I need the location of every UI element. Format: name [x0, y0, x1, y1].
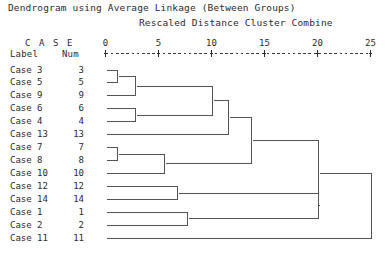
tree-branches — [107, 71, 372, 239]
axis-ruler — [104, 50, 372, 56]
dendrogram-tree — [0, 0, 390, 253]
dendrogram-screenshot: Dendrogram using Average Linkage (Betwee… — [0, 0, 390, 253]
